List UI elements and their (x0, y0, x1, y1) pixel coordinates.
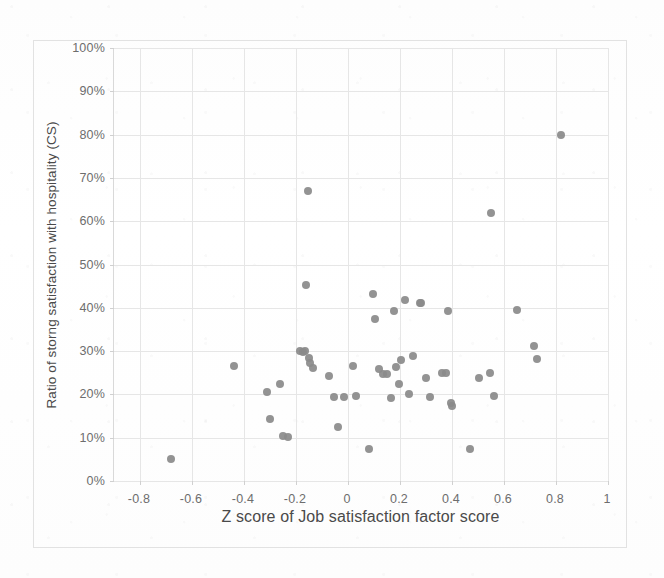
x-axis-tick-label: -0.8 (128, 492, 150, 506)
y-axis-tick-mark (110, 308, 114, 309)
gridline-vertical (244, 48, 245, 481)
x-axis-tick-label: 1 (603, 492, 610, 506)
scatter-point (533, 355, 541, 363)
scatter-point (371, 315, 379, 323)
y-axis-tick-label: 20% (79, 387, 105, 401)
gridline-vertical (452, 48, 453, 481)
scatter-point (401, 296, 409, 304)
gridline-horizontal (114, 91, 608, 92)
y-axis-tick-label: 60% (79, 214, 105, 228)
x-axis-tick-label: 0.6 (494, 492, 512, 506)
y-axis-tick-mark (110, 48, 114, 49)
scatter-point (284, 433, 292, 441)
scatter-point (442, 369, 450, 377)
scatter-point (325, 372, 333, 380)
scatter-point (475, 374, 483, 382)
scatter-point (387, 394, 395, 402)
gridline-horizontal (114, 351, 608, 352)
gridline-horizontal (114, 438, 608, 439)
gridline-vertical (192, 48, 193, 481)
scatter-point (330, 393, 338, 401)
gridline-vertical (140, 48, 141, 481)
scatter-point (417, 299, 425, 307)
scatter-point (490, 392, 498, 400)
gridline-horizontal (114, 265, 608, 266)
scatter-point (390, 307, 398, 315)
scatter-point (392, 363, 400, 371)
x-axis-tick-label: -0.4 (232, 492, 254, 506)
y-axis-tick-label: 90% (79, 84, 105, 98)
y-axis-tick-label: 50% (79, 258, 105, 272)
scatter-point (444, 307, 452, 315)
scatter-point (352, 392, 360, 400)
gridline-vertical (556, 48, 557, 481)
x-axis-tick-label: 0.4 (442, 492, 460, 506)
x-axis-tick-label: 0.2 (390, 492, 408, 506)
scatter-point (557, 131, 565, 139)
scatter-plot-area (113, 48, 608, 482)
scatter-point (340, 393, 348, 401)
gridline-vertical (348, 48, 349, 481)
gridline-horizontal (114, 48, 608, 49)
scatter-point (395, 380, 403, 388)
y-axis-tick-label: 0% (87, 474, 105, 488)
y-axis-tick-label: 70% (79, 171, 105, 185)
gridline-horizontal (114, 178, 608, 179)
gridline-horizontal (114, 135, 608, 136)
y-axis-tick-label: 10% (79, 431, 105, 445)
x-axis-tick-label: 0 (343, 492, 350, 506)
gridline-vertical (400, 48, 401, 481)
x-axis-tick-label: -0.2 (284, 492, 306, 506)
y-axis-title: Ratio of storng satisfaction with hospit… (44, 48, 66, 482)
gridline-vertical (296, 48, 297, 481)
scatter-point (365, 445, 373, 453)
scatter-point (422, 374, 430, 382)
scatter-point (513, 306, 521, 314)
y-axis-tick-mark (110, 135, 114, 136)
gridline-horizontal (114, 308, 608, 309)
gridline-horizontal (114, 394, 608, 395)
scatter-point (266, 415, 274, 423)
x-axis-title: Z score of Job satisfaction factor score (113, 508, 608, 526)
gridline-vertical (608, 48, 609, 481)
x-axis-tick-label: 0.8 (546, 492, 564, 506)
scatter-point (426, 393, 434, 401)
y-axis-tick-mark (110, 265, 114, 266)
y-axis-tick-mark (110, 438, 114, 439)
scatter-point (349, 362, 357, 370)
scatter-point (530, 342, 538, 350)
scatter-point (302, 281, 310, 289)
y-axis-tick-mark (110, 394, 114, 395)
scatter-point (230, 362, 238, 370)
gridline-horizontal (114, 221, 608, 222)
scatter-point (486, 369, 494, 377)
scatter-point (276, 380, 284, 388)
y-axis-tick-label: 40% (79, 301, 105, 315)
scatter-point (448, 402, 456, 410)
scatter-point (397, 356, 405, 364)
y-axis-tick-label: 80% (79, 128, 105, 142)
scatter-point (409, 352, 417, 360)
x-axis-tick-mark (608, 481, 609, 485)
y-axis-tick-label: 100% (72, 41, 105, 55)
scatter-point (466, 445, 474, 453)
scatter-point (309, 364, 317, 372)
scatter-point (167, 455, 175, 463)
y-axis-tick-label: 30% (79, 344, 105, 358)
y-axis-tick-mark (110, 351, 114, 352)
gridline-vertical (504, 48, 505, 481)
y-axis-tick-mark (110, 221, 114, 222)
x-axis-tick-label: -0.6 (180, 492, 202, 506)
scatter-point (304, 187, 312, 195)
y-axis-tick-mark (110, 91, 114, 92)
scatter-point (383, 370, 391, 378)
y-axis-tick-mark (110, 178, 114, 179)
scatter-point (369, 290, 377, 298)
scatter-point (487, 209, 495, 217)
scatter-point (405, 390, 413, 398)
scatter-point (334, 423, 342, 431)
